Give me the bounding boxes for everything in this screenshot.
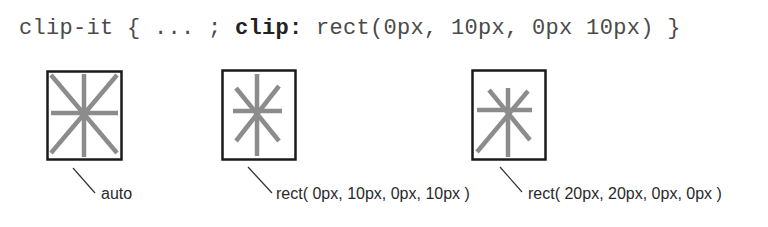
pointer-line xyxy=(248,167,272,193)
label-auto: auto xyxy=(101,185,132,203)
label-rect-20-20-0-0: rect( 20px, 20px, 0px, 0px ) xyxy=(528,185,722,203)
pointer-line xyxy=(500,167,522,192)
figure-rect-0-10-0-10 xyxy=(223,71,296,194)
label-rect-0-10-0-10: rect( 0px, 10px, 0px, 10px ) xyxy=(276,185,470,203)
figure-auto xyxy=(48,72,122,194)
pointer-line xyxy=(73,168,95,193)
figure-rect-20-20-0-0 xyxy=(473,71,546,193)
